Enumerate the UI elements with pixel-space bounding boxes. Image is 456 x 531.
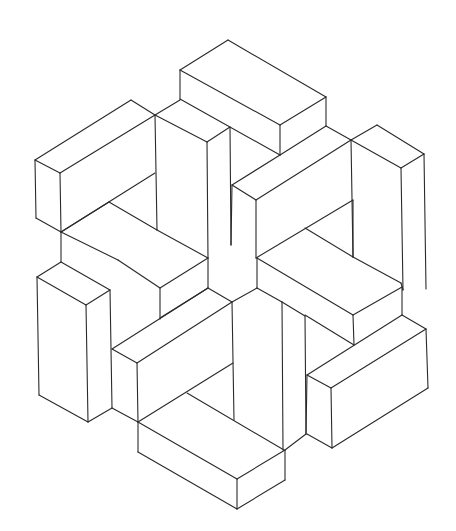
edge-line [230, 127, 231, 245]
edge-line [282, 302, 283, 450]
edge-line [353, 287, 402, 315]
edge-line [37, 277, 39, 395]
edge-line [426, 329, 428, 388]
edge-line [180, 40, 228, 70]
edge-line [402, 315, 426, 329]
edge-line [35, 160, 60, 173]
edge-line [61, 202, 109, 232]
edge-line [257, 288, 282, 302]
edge-line [307, 375, 331, 388]
edge-line [377, 125, 424, 154]
edge-line [237, 480, 285, 509]
edge-line [112, 408, 138, 422]
edge-line [424, 154, 426, 289]
edge-line [118, 260, 160, 288]
edge-line [280, 126, 326, 155]
edge-line [401, 154, 424, 168]
edge-line [331, 329, 426, 388]
edge-line [88, 408, 112, 422]
edge-line [131, 100, 155, 115]
edge-line [155, 100, 180, 115]
edge-line [353, 257, 401, 283]
edge-line [86, 305, 88, 422]
edge-line [331, 388, 332, 448]
edge-line [112, 349, 137, 363]
edge-line [208, 288, 232, 302]
isometric-blocks-drawing [0, 0, 456, 531]
edge-line [60, 115, 155, 173]
edge-line [307, 434, 332, 448]
edge-line [35, 160, 36, 218]
edge-line [39, 395, 88, 422]
edge-line [353, 315, 354, 345]
edge-line [306, 375, 307, 434]
edge-line [138, 422, 237, 479]
edge-line [282, 302, 305, 316]
edge-line [257, 258, 353, 315]
edge-line [180, 70, 280, 125]
edge-line [160, 258, 208, 288]
edge-line [207, 127, 230, 142]
edge-line [351, 140, 401, 168]
edge-line [137, 363, 138, 422]
edge-line [207, 142, 208, 258]
edge-line [285, 434, 306, 450]
edge-line [326, 126, 351, 140]
edge-line [36, 218, 61, 232]
edge-line [35, 100, 131, 160]
edge-line [61, 232, 118, 260]
edge-line [305, 315, 354, 345]
edge-line [157, 230, 208, 258]
edge-line [305, 228, 353, 257]
edge-line [237, 450, 285, 479]
edge-line [232, 302, 234, 420]
edge-line [138, 363, 233, 422]
edge-line [61, 262, 110, 290]
edge-line [232, 155, 280, 185]
edge-line [86, 290, 110, 305]
edge-line [109, 202, 157, 230]
edge-line [232, 185, 256, 200]
edge-line [256, 200, 353, 258]
edge-line [155, 115, 207, 142]
edge-line [138, 452, 237, 509]
edge-line [232, 288, 257, 302]
edge-line [332, 388, 428, 448]
edge-line [228, 40, 326, 97]
edge-line [280, 97, 326, 125]
edge-line [37, 262, 61, 277]
edge-line [60, 173, 61, 232]
edge-line [187, 393, 284, 450]
edge-line [401, 168, 403, 290]
edge-line [351, 125, 377, 140]
edge-line [307, 315, 402, 375]
edge-line [137, 302, 232, 363]
edge-line [155, 115, 157, 230]
edge-line [37, 277, 86, 305]
